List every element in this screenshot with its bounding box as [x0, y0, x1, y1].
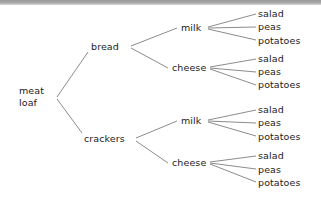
edge-cheese2-to-potatoes [210, 164, 256, 182]
edge-root-to-bread [57, 52, 88, 97]
node-root-label-line1: meat [19, 85, 44, 97]
node-crackers-milk: milk [181, 115, 201, 127]
leaf-bread-cheese-potatoes: potatoes [258, 79, 301, 91]
leaf-bread-milk-peas: peas [258, 21, 281, 33]
leaf-crackers-milk-potatoes: potatoes [258, 131, 301, 143]
edge-bread-to-milk [131, 28, 177, 46]
leaf-crackers-cheese-peas: peas [258, 164, 281, 176]
node-root-meat-loaf: meat loaf [19, 85, 44, 109]
leaf-crackers-cheese-potatoes: potatoes [258, 177, 301, 189]
edge-milk1-to-salad [208, 14, 256, 27]
edge-milk1-to-potatoes [208, 29, 256, 40]
edge-milk1-to-peas [208, 27, 256, 28]
edge-milk2-to-peas [208, 121, 256, 123]
node-bread: bread [91, 41, 119, 53]
edge-bread-to-cheese [131, 48, 168, 68]
node-root-label-line2: loaf [19, 97, 44, 109]
node-crackers: crackers [84, 133, 125, 145]
leaf-bread-cheese-salad: salad [258, 53, 284, 65]
node-bread-cheese: cheese [172, 62, 206, 74]
edge-cheese1-to-salad [210, 59, 256, 67]
node-crackers-cheese: cheese [172, 157, 206, 169]
leaf-bread-milk-potatoes: potatoes [258, 35, 301, 47]
leaf-crackers-milk-salad: salad [258, 104, 284, 116]
edge-crackers-to-cheese [136, 141, 168, 163]
leaf-crackers-milk-peas: peas [258, 117, 281, 129]
leaf-crackers-cheese-salad: salad [258, 150, 284, 162]
node-bread-milk: milk [181, 22, 201, 34]
edge-milk2-to-potatoes [208, 122, 256, 136]
edge-root-to-crackers [57, 99, 82, 133]
edge-milk2-to-salad [208, 110, 256, 120]
edge-crackers-to-milk [136, 121, 177, 138]
edge-cheese2-to-salad [210, 156, 256, 162]
tree-diagram-canvas: meat loaf bread crackers milk cheese mil… [0, 0, 321, 200]
edge-cheese2-to-peas [210, 163, 256, 169]
leaf-bread-milk-salad: salad [258, 8, 284, 20]
leaf-bread-cheese-peas: peas [258, 66, 281, 78]
